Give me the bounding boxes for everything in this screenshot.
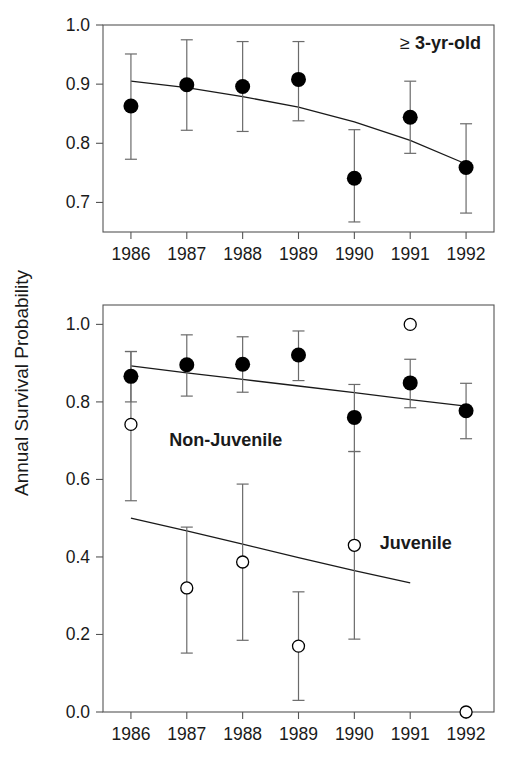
y-axis-tick-label: 1.0 — [66, 15, 91, 35]
x-axis-tick-label: 1986 — [111, 724, 150, 744]
data-point-filled[interactable] — [403, 110, 418, 125]
panel-top-3yr-old: 0.70.80.91.01986198719881989199019911992… — [66, 15, 494, 264]
data-point-filled[interactable] — [123, 369, 138, 384]
juvenile-label: Juvenile — [380, 533, 452, 553]
data-point-filled[interactable] — [179, 77, 194, 92]
panel-annotation: ≥ 3-yr-old — [400, 33, 481, 53]
data-point-filled[interactable] — [179, 357, 194, 372]
panel-bottom-juvenile: 0.00.20.40.60.81.01986198719881989199019… — [66, 305, 494, 744]
figure-container: Annual Survival Probability 0.70.80.91.0… — [0, 0, 524, 764]
x-axis-tick-label: 1989 — [279, 724, 318, 744]
data-point-open[interactable] — [293, 640, 305, 652]
panel-annotation-symbol: ≥ — [400, 33, 415, 53]
non-juvenile-label: Non-Juvenile — [169, 430, 282, 450]
data-point-filled[interactable] — [235, 357, 250, 372]
data-point-open[interactable] — [237, 556, 249, 568]
x-axis-tick-label: 1991 — [391, 724, 430, 744]
y-axis-tick-label: 0.6 — [66, 469, 90, 489]
y-axis-title: Annual Survival Probability — [11, 193, 33, 573]
x-axis-tick-label: 1992 — [447, 244, 486, 264]
x-axis-tick-label: 1991 — [391, 244, 430, 264]
x-axis-tick-label: 1989 — [279, 244, 318, 264]
data-point-filled[interactable] — [347, 171, 362, 186]
fitted-trend-juvenile-line — [131, 518, 410, 583]
x-axis-tick-label: 1986 — [111, 244, 150, 264]
x-axis-tick-label: 1987 — [167, 244, 206, 264]
data-point-filled[interactable] — [123, 99, 138, 114]
y-axis-tick-label: 1.0 — [66, 314, 91, 334]
data-point-open[interactable] — [348, 539, 360, 551]
x-axis-tick-label: 1988 — [223, 244, 262, 264]
x-axis-tick-label: 1990 — [335, 244, 374, 264]
y-axis-tick-label: 0.8 — [66, 392, 90, 412]
data-point-open[interactable] — [404, 318, 416, 330]
panel-annotation-text: 3-yr-old — [415, 33, 481, 53]
data-point-open[interactable] — [181, 582, 193, 594]
x-axis-tick-label: 1992 — [447, 724, 486, 744]
y-axis-tick-label: 0.4 — [66, 547, 91, 567]
y-axis-tick-label: 0.2 — [66, 624, 90, 644]
data-point-filled[interactable] — [459, 160, 474, 175]
data-point-filled[interactable] — [235, 79, 250, 94]
x-axis-tick-label: 1988 — [223, 724, 262, 744]
y-axis-tick-label: 0.9 — [66, 74, 90, 94]
data-point-open[interactable] — [460, 706, 472, 718]
y-axis-tick-label: 0.7 — [66, 192, 90, 212]
data-point-filled[interactable] — [291, 348, 306, 363]
data-point-filled[interactable] — [403, 375, 418, 390]
y-axis-tick-label: 0.0 — [66, 702, 91, 722]
data-point-filled[interactable] — [347, 410, 362, 425]
y-axis-tick-label: 0.8 — [66, 133, 90, 153]
data-point-filled[interactable] — [291, 72, 306, 87]
data-point-filled[interactable] — [459, 403, 474, 418]
data-point-open[interactable] — [125, 418, 137, 430]
chart-canvas: 0.70.80.91.01986198719881989199019911992… — [0, 0, 524, 764]
x-axis-tick-label: 1987 — [167, 724, 206, 744]
x-axis-tick-label: 1990 — [335, 724, 374, 744]
